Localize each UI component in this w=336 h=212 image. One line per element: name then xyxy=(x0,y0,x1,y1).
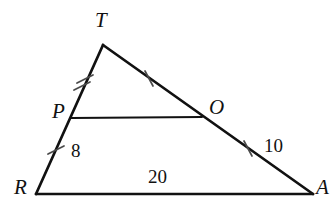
measure-label-RP: 8 xyxy=(71,141,81,160)
measure-label-RA: 20 xyxy=(148,167,167,186)
vertex-label-O: O xyxy=(209,97,224,118)
vertex-label-R: R xyxy=(14,177,27,198)
vertex-label-T: T xyxy=(95,10,107,31)
segment-TA xyxy=(103,45,313,194)
segment-RT xyxy=(36,45,103,194)
triangle-diagram xyxy=(0,0,336,212)
vertex-label-A: A xyxy=(316,177,329,198)
vertex-label-P: P xyxy=(52,101,65,122)
segment-PO xyxy=(71,117,202,118)
measure-label-OA: 10 xyxy=(264,136,283,155)
geometry-figure: T R A P O 8 10 20 xyxy=(0,0,336,212)
